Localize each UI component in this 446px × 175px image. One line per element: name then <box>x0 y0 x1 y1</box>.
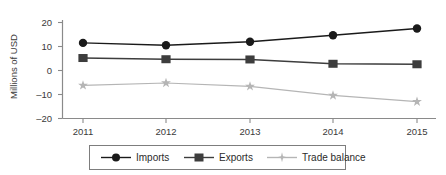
legend-label-trade-balance: Trade balance <box>302 152 366 163</box>
datapoint-exports-2013 <box>245 55 254 63</box>
series-exports-group <box>78 54 421 68</box>
x-tick-label-2013: 2013 <box>239 126 260 137</box>
datapoint-imports-2012 <box>162 41 170 49</box>
legend-label-imports: Imports <box>136 152 169 163</box>
legend-marker-square-icon <box>195 154 204 162</box>
series-imports-group <box>79 24 421 49</box>
x-tick-label-2015: 2015 <box>406 126 427 137</box>
y-tick-label-10: 10 <box>41 41 52 52</box>
x-tick-label-2014: 2014 <box>322 126 343 137</box>
y-axis-title: Millions of USD <box>8 34 19 99</box>
y-tick-label-20: 20 <box>41 17 52 28</box>
x-tick-label-2011: 2011 <box>73 126 93 137</box>
legend-marker-circle-icon <box>112 154 120 162</box>
y-tick-label-m20: –20 <box>36 113 52 124</box>
datapoint-imports-2014 <box>329 31 337 39</box>
datapoint-exports-2015 <box>412 60 421 68</box>
chart-svg: Millions of USD 20 10 0 –10 –20 2011 201… <box>0 0 446 175</box>
datapoint-imports-2011 <box>79 39 87 47</box>
datapoint-exports-2012 <box>161 55 170 63</box>
legend-item-trade-balance[interactable]: Trade balance <box>267 152 366 163</box>
y-tick-label-0: 0 <box>47 65 52 76</box>
trade-line-chart: Millions of USD 20 10 0 –10 –20 2011 201… <box>0 0 446 175</box>
datapoint-imports-2015 <box>413 24 421 32</box>
y-tick-label-m10: –10 <box>36 89 52 100</box>
datapoint-exports-2014 <box>328 60 337 68</box>
x-tick-label-2012: 2012 <box>155 126 176 137</box>
datapoint-exports-2011 <box>78 54 87 62</box>
legend-label-exports: Exports <box>219 152 253 163</box>
series-trade-balance-group <box>78 78 422 106</box>
datapoint-imports-2013 <box>246 38 254 46</box>
